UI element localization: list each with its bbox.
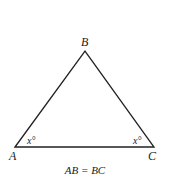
caption: AB = BC <box>64 164 106 176</box>
triangle-diagram: B A C x° x° AB = BC <box>0 0 169 177</box>
angle-label-c: x° <box>132 135 141 146</box>
triangle-abc <box>15 51 154 147</box>
vertex-label-c: C <box>148 149 157 163</box>
vertex-label-b: B <box>81 35 89 49</box>
vertex-label-a: A <box>8 149 17 163</box>
angle-label-a: x° <box>26 135 35 146</box>
